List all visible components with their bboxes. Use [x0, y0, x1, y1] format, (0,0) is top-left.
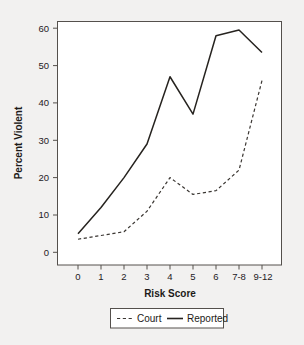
chart-legend: Court Reported	[111, 309, 229, 329]
legend-label-reported: Reported	[187, 313, 228, 324]
y-axis-ticks	[53, 28, 58, 252]
x-tick-label-2: 2	[121, 271, 126, 282]
x-tick-label-1: 1	[98, 271, 103, 282]
y-tick-label-30: 30	[38, 135, 49, 146]
x-tick-label-4: 4	[167, 271, 172, 282]
y-tick-label-20: 20	[38, 172, 49, 183]
chart-figure: 0 10 20 30 40 50 60 Percent Violent 0 1 …	[0, 0, 304, 345]
x-tick-label-6: 6	[213, 271, 218, 282]
x-tick-label-0: 0	[75, 271, 80, 282]
x-axis-title: Risk Score	[144, 288, 196, 299]
x-axis-ticks	[78, 265, 262, 270]
y-tick-label-40: 40	[38, 97, 49, 108]
x-tick-label-5: 5	[190, 271, 195, 282]
x-tick-label-9-12: 9-12	[253, 271, 272, 282]
plot-area-background	[58, 22, 282, 266]
y-tick-label-60: 60	[38, 23, 49, 34]
x-tick-label-3: 3	[144, 271, 149, 282]
y-axis-title: Percent Violent	[13, 106, 24, 179]
y-tick-label-50: 50	[38, 60, 49, 71]
legend-label-court: Court	[137, 313, 162, 324]
y-tick-label-10: 10	[38, 209, 49, 220]
chart-canvas: 0 10 20 30 40 50 60 Percent Violent 0 1 …	[0, 0, 304, 345]
x-tick-label-7-8: 7-8	[232, 271, 246, 282]
y-tick-label-0: 0	[44, 247, 49, 258]
